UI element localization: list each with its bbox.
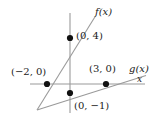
curve-label-g: g(x) <box>129 64 149 74</box>
data-point-neg2-0 <box>44 81 50 87</box>
point-label-neg2-0: (−2, 0) <box>11 67 46 77</box>
data-point-3-0 <box>103 81 109 87</box>
x-axis-label: x <box>137 75 142 84</box>
point-label-0-4: (0, 4) <box>76 31 103 41</box>
coordinate-plane-figure: f(x) (0, 4) (−2, 0) (3, 0) g(x) x (0, −1… <box>0 0 157 122</box>
point-label-3-0: (3, 0) <box>89 64 116 74</box>
point-label-0-neg1: (0, −1) <box>74 101 109 111</box>
curve-label-f: f(x) <box>95 7 112 17</box>
data-point-0-4 <box>67 35 73 41</box>
data-point-0-neg1 <box>67 90 73 96</box>
